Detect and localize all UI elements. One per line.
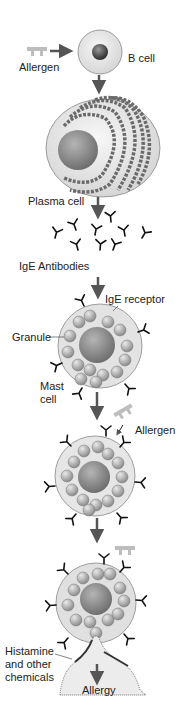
- label-allergy: Allergy: [82, 684, 116, 696]
- allergen-icon: [27, 47, 47, 56]
- label-granule: Granule: [12, 331, 51, 343]
- label-allergen-1: Allergen: [19, 61, 59, 73]
- histamine-leader-line: [55, 654, 72, 659]
- label-histamine-3: chemicals: [5, 671, 54, 683]
- label-ige-receptor: IgE receptor: [105, 293, 165, 305]
- plasma-cell: [46, 98, 160, 197]
- diagram-canvas: [0, 0, 186, 726]
- arrow-allergen-binding: [118, 425, 123, 433]
- label-plasma-cell: Plasma cell: [28, 195, 84, 207]
- b-cell: [78, 30, 122, 74]
- label-allergen-2: Allergen: [135, 424, 175, 436]
- mast-cell-1: [58, 304, 142, 388]
- label-histamine-1: Histamine: [5, 645, 54, 657]
- mast-cell-3: [56, 563, 136, 643]
- label-mast-cell-1: Mast: [40, 380, 64, 392]
- allergen-icon-2: [113, 404, 135, 422]
- label-mast-cell-2: cell: [40, 393, 57, 405]
- ige-antibodies-group: [50, 212, 151, 252]
- allergen-icon-3: [115, 546, 135, 555]
- label-ige-antibodies: IgE Antibodies: [19, 260, 89, 272]
- mast-cell-2: [55, 436, 135, 516]
- label-b-cell: B cell: [128, 52, 155, 64]
- label-histamine-2: and other: [5, 658, 51, 670]
